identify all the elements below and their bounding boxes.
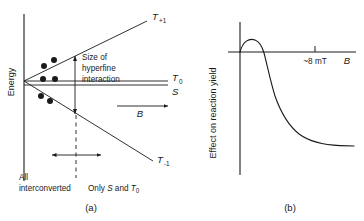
region-high-field-t-sub: 0 [136,187,140,194]
panel-b-y-axis-label: Effect on reaction yield [208,68,218,159]
magnetic-field-effect-curve [240,39,354,146]
region-low-field-label: All interconverted [19,173,71,193]
radical-pair-dots [38,57,58,104]
dot [38,93,44,99]
label-singlet: S [172,86,179,97]
region-high-field-mid: and [113,184,131,193]
label-t-minus-1-sub: -1 [164,160,170,167]
panel-b-x-axis-label: B [344,55,351,66]
hyperfine-annotation: Size of hyperfine interaction [82,53,120,84]
figure-container: Energy B T +1 T 0 S T -1 Size of hyperfi… [0,0,364,221]
label-t-minus-1: T -1 [157,154,170,167]
region-low-field-line-2: interconverted [19,184,71,193]
panel-b-tick-label: ~8 mT [303,57,326,66]
dot [40,76,46,82]
panel-a-x-axis-label: B [137,108,144,119]
hyperfine-line-3: interaction [82,75,120,84]
hyperfine-line-2: hyperfine [82,64,116,73]
label-t-zero-sub: 0 [179,78,183,85]
region-low-field-line-1: All [19,173,28,182]
label-t-minus-1-text: T [157,154,164,165]
svg-text:Only S and T0: Only S and T0 [88,184,140,194]
dot [41,63,47,69]
level-line-t-minus-1 [24,81,153,161]
panel-a-caption: (a) [85,202,97,213]
dot [51,57,57,63]
figure-svg: Energy B T +1 T 0 S T -1 Size of hyperfi… [0,0,364,221]
hyperfine-line-1: Size of [82,53,108,62]
panel-a-y-axis-label: Energy [6,67,16,96]
region-high-field-label: Only S and T0 [88,184,140,194]
panel-b-caption: (b) [284,202,296,213]
panel-b: Effect on reaction yield ~8 mT B (b) [208,22,356,213]
label-t-plus-1: T +1 [152,11,167,24]
panel-a: Energy B T +1 T 0 S T -1 Size of hyperfi… [6,11,183,213]
label-t-zero: T 0 [172,72,183,85]
label-t-plus-1-text: T [152,11,159,22]
label-t-plus-1-sub: +1 [159,17,167,24]
dot [52,76,58,82]
dot [47,98,53,104]
region-high-field-prefix: Only [88,184,107,193]
label-t-zero-text: T [172,72,179,83]
